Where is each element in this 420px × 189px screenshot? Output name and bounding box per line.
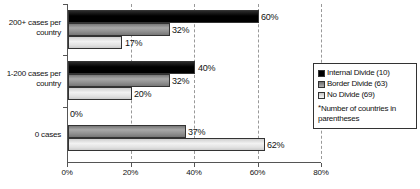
legend: Internal Divide (10) Border Divide (63) … bbox=[313, 63, 417, 129]
bar-g0-internal-divide bbox=[68, 10, 259, 23]
category-label-1: 1-200 cases per country bbox=[0, 69, 61, 89]
x-tick-3 bbox=[258, 163, 259, 167]
legend-label-no-divide: No Divide (69) bbox=[327, 90, 375, 100]
x-axis-label-1: 20% bbox=[111, 168, 151, 177]
x-axis-label-3: 60% bbox=[238, 168, 278, 177]
bar-g2-no-divide bbox=[68, 138, 265, 151]
bar-g1-no-divide bbox=[68, 87, 132, 100]
legend-swatch-icon-internal-divide bbox=[318, 70, 325, 77]
bar-g2-border-divide bbox=[68, 125, 186, 138]
bar-g0-no-divide bbox=[68, 36, 122, 49]
x-axis-label-0: 0% bbox=[47, 168, 87, 177]
legend-label-border-divide: Border Divide (63) bbox=[327, 79, 387, 89]
bar-value-g0-no-divide: 17% bbox=[125, 38, 142, 48]
category-label-0: 200+ cases per country bbox=[0, 18, 61, 38]
bar-value-g2-border-divide: 37% bbox=[188, 127, 205, 137]
bar-g1-internal-divide bbox=[68, 61, 195, 74]
bar-g1-border-divide bbox=[68, 74, 170, 87]
x-tick-0 bbox=[67, 163, 68, 167]
plot-area: 0% 20% 40% 60% 80% 60% 32% 17% 40% 32% 2… bbox=[67, 4, 321, 163]
legend-swatch-icon-border-divide bbox=[318, 81, 325, 88]
category-label-2: 0 cases bbox=[0, 130, 61, 140]
legend-footnote: *Number of countries in parentheses bbox=[318, 104, 413, 124]
bar-value-g1-border-divide: 32% bbox=[172, 76, 189, 86]
legend-swatch-icon-no-divide bbox=[318, 92, 325, 99]
x-tick-4 bbox=[321, 163, 322, 167]
x-axis-label-2: 40% bbox=[174, 168, 214, 177]
bar-chart: 200+ cases per country 1-200 cases per c… bbox=[0, 0, 420, 189]
bar-value-g2-internal-divide: 0% bbox=[70, 109, 83, 119]
x-axis-label-4: 80% bbox=[301, 168, 341, 177]
bar-value-g2-no-divide: 62% bbox=[267, 140, 284, 150]
bar-value-g1-internal-divide: 40% bbox=[198, 63, 215, 73]
gridline-60 bbox=[258, 4, 259, 159]
bar-value-g0-internal-divide: 60% bbox=[261, 12, 278, 22]
x-tick-2 bbox=[194, 163, 195, 167]
legend-item-internal-divide: Internal Divide (10) bbox=[318, 68, 413, 78]
bar-g0-border-divide bbox=[68, 23, 170, 36]
x-tick-1 bbox=[131, 163, 132, 167]
bar-value-g0-border-divide: 32% bbox=[172, 25, 189, 35]
legend-label-internal-divide: Internal Divide (10) bbox=[327, 68, 390, 78]
legend-footnote-text: Number of countries in parentheses bbox=[318, 104, 396, 123]
bar-value-g1-no-divide: 20% bbox=[134, 89, 151, 99]
legend-item-no-divide: No Divide (69) bbox=[318, 90, 413, 100]
y-tick-2 bbox=[63, 107, 67, 108]
y-tick-1 bbox=[63, 55, 67, 56]
y-tick-0 bbox=[63, 4, 67, 5]
legend-item-border-divide: Border Divide (63) bbox=[318, 79, 413, 89]
